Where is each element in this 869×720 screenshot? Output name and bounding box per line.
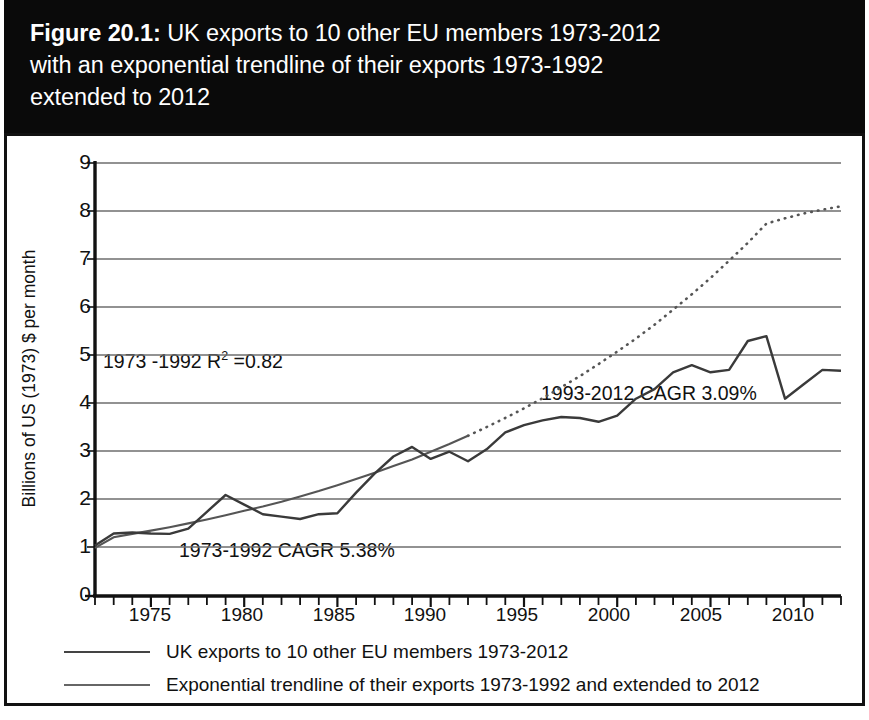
legend-item-exports[interactable]: UK exports to 10 other EU members 1973-2…: [64, 639, 568, 665]
series-trendline-solid: [95, 436, 468, 548]
figure-title: Figure 20.1: UK exports to 10 other EU m…: [30, 17, 839, 113]
axis-lines: [93, 161, 841, 596]
chart-panel: Billions of US (1973) $ per month 9 8 7 …: [4, 133, 865, 706]
figure-title-line3: extended to 2012: [30, 84, 210, 110]
plot-area: Billions of US (1973) $ per month 9 8 7 …: [7, 136, 862, 703]
figure-20-1: Figure 20.1: UK exports to 10 other EU m…: [0, 0, 869, 720]
chart-legend: UK exports to 10 other EU members 1973-2…: [4, 631, 865, 706]
legend-swatch-exports-line: [64, 651, 150, 653]
legend-label-exports: UK exports to 10 other EU members 1973-2…: [166, 641, 568, 663]
figure-title-band: Figure 20.1: UK exports to 10 other EU m…: [4, 0, 865, 133]
series-trendline-dotted: [468, 206, 841, 435]
x-axis-ticks: [95, 596, 841, 607]
legend-item-trendline[interactable]: Exponential trendline of their exports 1…: [64, 672, 760, 698]
legend-swatch-trendline: [64, 684, 150, 686]
chart-svg: [7, 136, 862, 703]
series-uk-exports: [95, 336, 841, 545]
page-bleed-text: [0, 709, 869, 720]
figure-title-line2: with an exponential trendline of their e…: [30, 52, 603, 78]
gridlines: [95, 163, 841, 547]
figure-number: Figure 20.1:: [30, 20, 161, 46]
figure-title-line1: UK exports to 10 other EU members 1973-2…: [161, 20, 661, 46]
legend-label-trendline: Exponential trendline of their exports 1…: [166, 674, 760, 696]
